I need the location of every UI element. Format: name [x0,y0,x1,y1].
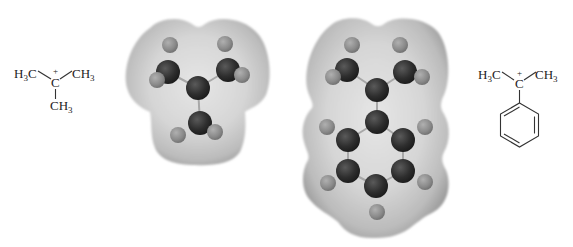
figure-canvas: H3C C + CH3 CH3 [0,0,573,247]
bond-line [38,71,51,79]
bond-line [502,72,514,80]
cumyl-cation-formula: H3C C + CH3 [478,67,558,147]
central-carbon: C [515,76,524,91]
positive-charge: + [517,68,522,78]
tert-butyl-cation-model [126,19,270,165]
methyl-group-bottom: CH3 [50,98,73,115]
cumyl-cation-model [303,18,449,238]
methyl-group-left: H3C [14,66,37,83]
benzene-ring [501,103,539,147]
methyl-group-left: H3C [478,67,501,84]
methyl-group-right: CH3 [535,67,558,84]
central-carbon: C [51,75,60,90]
positive-charge: + [53,66,58,76]
tert-butyl-cation-formula: H3C C + CH3 CH3 [14,66,95,115]
methyl-group-right: CH3 [72,66,95,83]
bond-line [60,71,72,79]
